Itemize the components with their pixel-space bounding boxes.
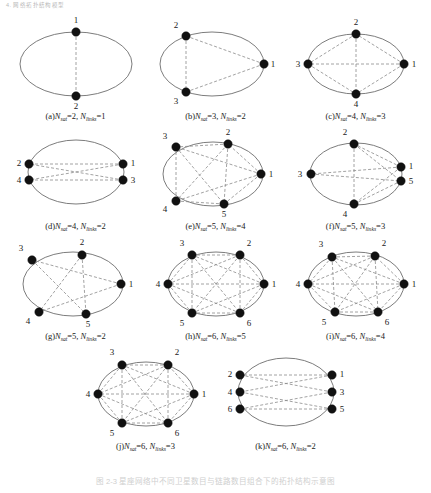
running-head: 4. 网络拓扑结构模型 — [6, 1, 65, 9]
link-1-3 — [186, 64, 264, 92]
link-1-2 — [354, 144, 401, 167]
n-links-value: =3 — [377, 111, 386, 121]
n-sat-value: =5 — [207, 221, 216, 231]
node-label-4: 4 — [16, 175, 21, 185]
link-3-5 — [176, 147, 224, 204]
satellite-node-1 — [399, 60, 407, 68]
satellite-node-3 — [303, 60, 311, 68]
panel-a: 12(a)Nsat=2, Nlinks=1 — [6, 12, 146, 122]
n-sat-subscript: sat — [340, 116, 347, 122]
n-links-subscript: links — [86, 116, 97, 122]
node-label-4: 4 — [353, 99, 358, 109]
satellite-node-4 — [163, 280, 171, 288]
satellite-node-3 — [117, 361, 125, 369]
figure-row-2: 1234(d)Nsat=4, Nlinks=212345(e)Nsat=5, N… — [0, 122, 431, 232]
satellite-node-3 — [306, 170, 314, 178]
n-links-value: =5 — [237, 331, 246, 341]
n-sat-value: =6 — [136, 441, 145, 451]
satellite-node-4 — [303, 280, 311, 288]
graph-g: 12345 — [6, 232, 146, 332]
panel-c: 1234(c)Nsat=4, Nlinks=3 — [286, 12, 426, 122]
link-1-3 — [192, 255, 264, 284]
satellite-node-1 — [259, 60, 267, 68]
link-1-2 — [186, 36, 264, 64]
n-links-subscript: links — [86, 336, 97, 342]
node-label-4: 4 — [227, 387, 232, 397]
n-sat-symbol: N — [195, 331, 201, 341]
n-sat-value: =4 — [67, 221, 76, 231]
panel-tag: (j) — [116, 441, 124, 451]
n-sat-value: =5 — [67, 331, 76, 341]
node-label-6: 6 — [174, 428, 179, 438]
node-label-1: 1 — [411, 279, 416, 289]
link-4-5 — [168, 284, 192, 313]
link-1-2 — [356, 34, 404, 64]
node-label-5: 5 — [339, 404, 344, 414]
node-label-6: 6 — [227, 404, 232, 414]
satellite-node-3 — [187, 251, 195, 259]
n-sat-subscript: sat — [61, 226, 68, 232]
n-links-symbol: N — [360, 221, 366, 231]
node-label-3: 3 — [318, 239, 323, 249]
satellite-node-2 — [71, 92, 79, 100]
graph-f: 12345 — [286, 122, 426, 222]
panel-caption-d: (d)Nsat=4, Nlinks=2 — [45, 221, 106, 232]
link-2-3 — [332, 256, 375, 257]
panel-caption-e: (e)Nsat=5, Nlinks=4 — [185, 221, 245, 232]
panel-e: 12345(e)Nsat=5, Nlinks=4 — [146, 122, 286, 232]
satellite-node-5 — [219, 200, 227, 208]
node-label-2: 2 — [342, 127, 347, 137]
graph-j: 123456 — [76, 342, 216, 442]
satellite-node-5 — [330, 308, 338, 316]
n-links-value: =3 — [166, 441, 175, 451]
n-sat-value: =6 — [277, 441, 286, 451]
node-label-4: 4 — [295, 279, 300, 289]
panel-caption-g: (g)Nsat=5, Nlinks=2 — [45, 331, 106, 342]
n-links-subscript: links — [155, 446, 166, 452]
figure-row-4: 123456(j)Nsat=6, Nlinks=3123456(k)Nsat=6… — [0, 342, 431, 452]
node-label-6: 6 — [384, 317, 389, 327]
panel-tag: (k) — [255, 441, 265, 451]
node-label-1: 1 — [271, 279, 276, 289]
panel-tag: (b) — [185, 111, 195, 121]
panel-h: 123456(h)Nsat=6, Nlinks=5 — [146, 232, 286, 342]
node-label-1: 1 — [128, 279, 133, 289]
n-links-subscript: links — [366, 116, 377, 122]
satellite-node-1 — [71, 28, 79, 36]
satellite-node-2 — [163, 361, 171, 369]
panel-d: 1234(d)Nsat=4, Nlinks=2 — [6, 122, 146, 232]
n-links-value: =2 — [237, 111, 246, 121]
satellite-node-6 — [163, 419, 171, 427]
node-label-2: 2 — [353, 17, 358, 27]
node-label-2: 2 — [227, 369, 232, 379]
satellite-node-1 — [259, 280, 267, 288]
node-label-5: 5 — [321, 317, 326, 327]
satellite-node-3 — [118, 176, 126, 184]
n-links-value: =2 — [97, 221, 106, 231]
graph-h: 123456 — [146, 232, 286, 332]
n-links-subscript: links — [226, 336, 237, 342]
panel-tag: (a) — [45, 111, 54, 121]
n-sat-subscript: sat — [61, 336, 68, 342]
link-3-5 — [332, 257, 335, 312]
satellite-node-6 — [373, 308, 381, 316]
n-sat-subscript: sat — [130, 446, 137, 452]
satellite-node-2 — [223, 140, 231, 148]
link-3-4 — [168, 255, 192, 284]
panel-caption-b: (b)Nsat=3, Nlinks=2 — [185, 111, 246, 122]
n-links-subscript: links — [296, 446, 307, 452]
panel-caption-i: (i)Nsat=6, Nlinks=4 — [326, 331, 385, 342]
n-sat-subscript: sat — [201, 116, 208, 122]
node-label-4: 4 — [25, 316, 30, 326]
node-label-2: 2 — [225, 127, 230, 137]
panel-k: 123456(k)Nsat=6, Nlinks=2 — [216, 342, 356, 452]
node-label-3: 3 — [130, 175, 135, 185]
orbit-ellipse — [163, 142, 263, 206]
satellite-node-4 — [24, 176, 32, 184]
n-sat-subscript: sat — [340, 226, 347, 232]
link-1-4 — [356, 64, 404, 94]
satellite-node-4 — [93, 390, 101, 398]
satellite-node-2 — [181, 32, 189, 40]
link-1-2 — [228, 144, 261, 174]
link-2-5 — [82, 255, 86, 314]
